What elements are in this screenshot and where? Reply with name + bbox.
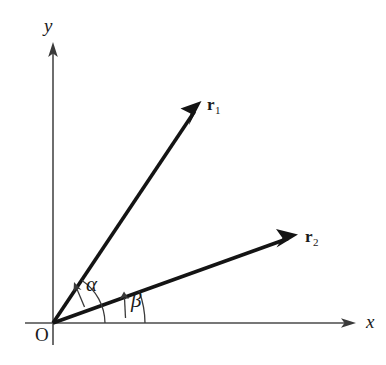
x-axis-label: x [366,312,374,331]
vector-r1-label: r1 [207,96,221,116]
vector-diagram: y x O r1 r2 α β [0,0,386,365]
vector-r1-label-base: r [207,95,215,114]
y-axis-label: y [44,16,52,35]
vector-r2-label: r2 [305,228,319,248]
vector-r1-arrowhead [181,101,202,125]
diagram-canvas [0,0,386,365]
x-axis [25,318,356,328]
vector-r2-label-base: r [305,227,313,246]
vector-r1-line [53,112,195,324]
vector-r1-label-subscript: 1 [215,104,221,116]
beta-leader-line [125,298,126,318]
angle-beta-label: β [131,290,141,311]
vector-r2-label-subscript: 2 [313,236,319,248]
y-axis [48,42,58,345]
angle-alpha-label: α [86,274,97,295]
origin-label: O [35,325,49,344]
vector-r2-arrowhead [276,229,298,248]
alpha-leader-line [77,288,85,307]
